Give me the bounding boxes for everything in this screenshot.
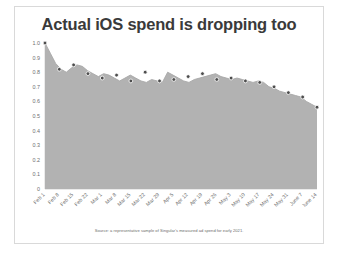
- y-axis-tick-label: 0.8: [33, 69, 41, 75]
- data-point-marker: [201, 72, 205, 76]
- data-point-marker: [244, 79, 248, 83]
- x-axis-tick-label: Apr 26: [202, 191, 217, 206]
- page-title: Actual iOS spend is dropping too: [15, 15, 323, 34]
- x-axis-tick-label: Mar 15: [116, 191, 132, 207]
- x-axis-tick-label: Feb 1: [32, 191, 46, 205]
- x-axis-tick-label: Apr 12: [174, 191, 189, 206]
- x-axis-tick-label: Feb 15: [59, 191, 75, 207]
- y-axis-tick-label: 0.1: [33, 171, 41, 177]
- x-axis-tick-label: Feb 22: [73, 191, 89, 207]
- data-point-marker: [100, 76, 104, 80]
- data-point-marker: [86, 72, 90, 76]
- y-axis-tick-label: 1.0: [33, 40, 41, 46]
- data-point-marker: [172, 78, 176, 82]
- y-axis-tick-label: 0: [37, 186, 40, 192]
- data-point-marker: [286, 91, 290, 95]
- y-axis-tick-label: 0.7: [33, 84, 41, 90]
- x-axis-tick-label: Mar 1: [89, 191, 103, 205]
- area-series-fill: [45, 43, 317, 189]
- data-point-marker: [43, 41, 47, 45]
- data-point-marker: [186, 75, 190, 79]
- x-axis-tick-label: Mar 22: [130, 191, 146, 207]
- data-point-marker: [129, 79, 133, 83]
- data-point-marker: [272, 85, 276, 89]
- y-axis-tick-label: 0.2: [33, 157, 41, 163]
- data-point-marker: [57, 67, 61, 71]
- data-point-marker: [115, 73, 119, 77]
- y-axis-tick-label: 0.4: [33, 128, 41, 134]
- data-point-marker: [315, 105, 319, 109]
- y-axis-tick-label: 0.5: [33, 113, 41, 119]
- x-axis-tick-label: Apr 19: [188, 191, 203, 206]
- data-point-marker: [229, 76, 233, 80]
- data-point-marker: [215, 78, 219, 82]
- y-axis-tick-label: 0.9: [33, 55, 41, 61]
- data-point-marker: [158, 79, 162, 83]
- x-axis-tick-label: May 31: [273, 191, 289, 207]
- y-axis-tick-label: 0.6: [33, 98, 41, 104]
- data-point-marker: [301, 95, 305, 99]
- chart-source-note: Source: a representative sample of Singu…: [15, 228, 323, 233]
- x-axis-tick-label: May 17: [244, 191, 260, 207]
- data-point-marker: [72, 63, 76, 67]
- y-axis-tick-label: 0.3: [33, 142, 41, 148]
- data-point-marker: [143, 70, 147, 74]
- area-chart-svg: 1.00.90.80.70.60.50.40.30.20.10 Feb 1Feb…: [15, 37, 325, 207]
- chart-card: Actual iOS spend is dropping too 1.00.90…: [14, 6, 324, 244]
- data-point-marker: [258, 81, 262, 85]
- x-axis-tick-label: Mar 29: [145, 191, 161, 207]
- x-axis-tick-label: May 24: [258, 191, 274, 207]
- x-axis-tick-label: June 14: [300, 191, 317, 207]
- x-axis-tick-labels: Feb 1Feb 8Feb 15Feb 22Mar 1Mar 8Mar 15Ma…: [32, 191, 318, 207]
- chart-plot-area: 1.00.90.80.70.60.50.40.30.20.10 Feb 1Feb…: [15, 37, 325, 207]
- x-axis-tick-label: May 10: [230, 191, 246, 207]
- y-axis-tick-labels: 1.00.90.80.70.60.50.40.30.20.10: [33, 40, 41, 192]
